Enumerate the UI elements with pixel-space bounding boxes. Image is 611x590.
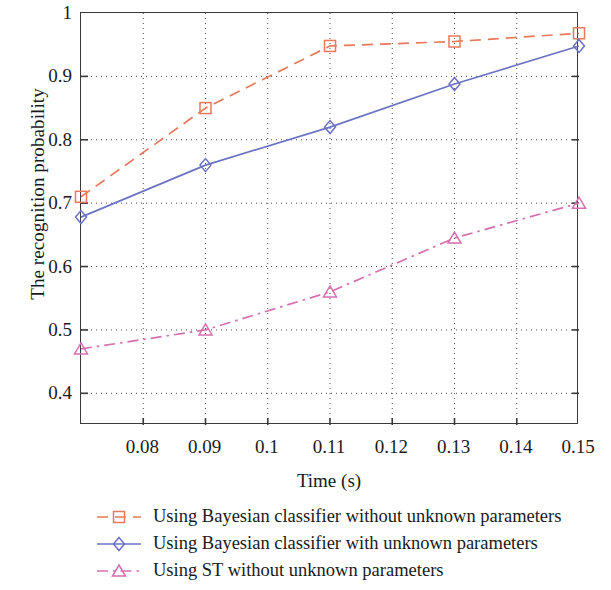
y-tick-label: 0.8 (14, 129, 72, 148)
data-point-marker (199, 324, 212, 335)
series-line-0 (81, 33, 579, 197)
data-point-marker (324, 286, 337, 297)
data-point-marker (449, 77, 460, 90)
data-point-marker (114, 511, 125, 522)
legend-item-1: Using Bayesian classifier with unknown p… (96, 530, 596, 557)
y-tick-label: 0.7 (14, 193, 72, 212)
y-axis-tick-labels: 0.40.50.60.70.80.91 (8, 12, 72, 424)
data-point-marker (449, 36, 460, 47)
data-point-marker (200, 103, 211, 114)
x-tick-label: 0.09 (188, 437, 221, 456)
plot-svg (81, 13, 579, 425)
y-tick-label: 1 (14, 3, 72, 22)
legend-item-2: Using ST without unknown parameters (96, 557, 596, 584)
x-tick-label: 0.1 (255, 437, 279, 456)
chart-legend: Using Bayesian classifier without unknow… (96, 503, 596, 584)
data-point-marker (325, 121, 336, 134)
data-point-marker (448, 232, 461, 243)
data-point-marker (76, 211, 87, 224)
legend-label: Using ST without unknown parameters (153, 561, 444, 580)
data-point-marker (325, 40, 336, 51)
data-point-marker (574, 28, 585, 39)
series-line-2 (81, 203, 579, 349)
x-axis-tick-labels: 0.080.090.10.110.120.130.140.15 (80, 437, 578, 463)
data-point-marker (114, 537, 125, 550)
legend-key-diamond-icon (96, 533, 142, 555)
y-tick-label: 0.9 (14, 66, 72, 85)
x-tick-label: 0.11 (313, 437, 346, 456)
data-point-marker (76, 191, 87, 202)
legend-label: Using Bayesian classifier with unknown p… (153, 534, 538, 553)
plot-area (80, 12, 578, 424)
chart-figure: The recognition probability 0.40.50.60.7… (0, 0, 611, 590)
x-tick-label: 0.13 (437, 437, 470, 456)
data-point-marker (200, 159, 211, 172)
x-axis-title: Time (s) (80, 470, 578, 492)
legend-key-square-icon (96, 506, 142, 528)
x-tick-label: 0.08 (126, 437, 159, 456)
y-tick-label: 0.5 (14, 319, 72, 338)
legend-item-0: Using Bayesian classifier without unknow… (96, 503, 596, 530)
data-point-marker (574, 39, 585, 52)
x-tick-label: 0.15 (561, 437, 594, 456)
y-tick-label: 0.4 (14, 383, 72, 402)
x-tick-label: 0.14 (499, 437, 532, 456)
y-tick-label: 0.6 (14, 256, 72, 275)
x-tick-label: 0.12 (375, 437, 408, 456)
legend-key-triangle-icon (96, 560, 142, 582)
legend-label: Using Bayesian classifier without unknow… (153, 507, 561, 526)
